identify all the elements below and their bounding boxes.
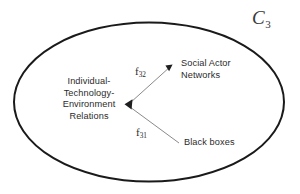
system-boundary-label-base: C xyxy=(252,7,265,28)
node-label-social-actor-networks: Social Actor Networks xyxy=(181,58,271,81)
edge-label-f31-subscript: 31 xyxy=(140,131,147,140)
diagram-canvas: Individual- Technology- Environment Rela… xyxy=(0,0,300,194)
system-boundary-label: C3 xyxy=(252,8,270,30)
node-label-individual-technology-environment-relations: Individual- Technology- Environment Rela… xyxy=(52,76,126,122)
edge-label-f31: f31 xyxy=(136,127,147,139)
node-label-black-boxes: Black boxes xyxy=(184,137,274,149)
system-boundary-label-subscript: 3 xyxy=(265,18,271,30)
edge-label-f32: f32 xyxy=(135,66,146,78)
edge-label-f32-subscript: 32 xyxy=(139,70,146,79)
